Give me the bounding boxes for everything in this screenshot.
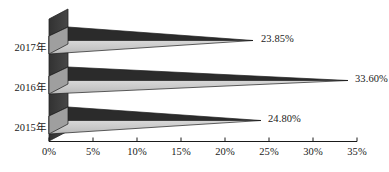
cone-bar-2015 — [49, 107, 261, 134]
x-tick-label-2: 10% — [127, 146, 147, 157]
cone-bar-2016 — [49, 67, 348, 94]
x-tick-label-0: 0% — [42, 146, 56, 157]
x-tick-label-4: 20% — [215, 146, 235, 157]
value-label-2016: 33.60% — [355, 73, 388, 84]
category-label-2016: 2016年 — [8, 79, 46, 94]
category-label-2015: 2015年 — [8, 119, 46, 134]
x-tick-label-5: 25% — [259, 146, 279, 157]
value-label-2017: 23.85% — [261, 33, 294, 44]
chart-plot-area — [0, 0, 389, 172]
cone-bar-2017 — [49, 27, 253, 54]
value-label-2015: 24.80% — [268, 113, 301, 124]
x-tick-label-6: 30% — [303, 146, 323, 157]
x-axis-ticks — [49, 138, 357, 142]
x-tick-label-3: 15% — [171, 146, 191, 157]
cone-bar-chart: 2017年 2016年 2015年 23.85% 33.60% 24.80% 0… — [0, 0, 389, 172]
x-tick-label-7: 35% — [347, 146, 367, 157]
x-tick-label-1: 5% — [86, 146, 100, 157]
category-label-2017: 2017年 — [8, 39, 46, 54]
